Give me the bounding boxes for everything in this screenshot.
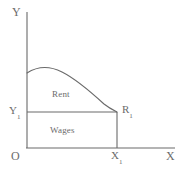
y-axis-label: Y	[12, 6, 21, 18]
wages-region-label: Wages	[50, 126, 75, 135]
diagram-canvas	[0, 0, 187, 171]
rent-region-label: Rent	[52, 90, 70, 99]
x1-subscript: 1	[119, 158, 123, 166]
y1-base: Y	[9, 104, 17, 116]
x-axis-label: X	[166, 150, 175, 162]
marginal-product-curve	[27, 68, 117, 112]
x1-base: X	[111, 149, 119, 161]
economics-rent-wages-diagram: Y X O Y1 X1 R1 Rent Wages	[0, 0, 187, 171]
y1-subscript: 1	[17, 113, 21, 121]
x1-point-label: X1	[111, 150, 122, 164]
r1-point-label: R1	[122, 104, 133, 118]
y1-point-label: Y1	[9, 105, 20, 119]
r1-subscript: 1	[129, 112, 133, 120]
origin-label: O	[11, 150, 20, 162]
